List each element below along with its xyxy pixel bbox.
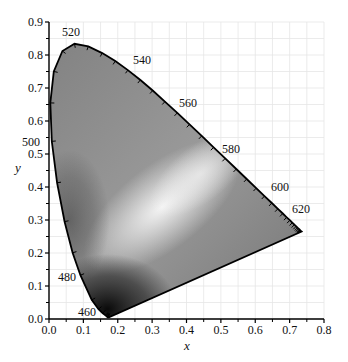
x-tick-label: 0.7 — [282, 323, 297, 337]
y-tick-label: 0.1 — [28, 279, 43, 293]
y-tick-label: 0.3 — [28, 213, 43, 227]
wavelength-label-580: 580 — [222, 142, 240, 156]
wavelength-label-460: 460 — [78, 305, 96, 319]
wavelength-label-620: 620 — [292, 202, 310, 216]
y-tick-label: 0.6 — [28, 114, 43, 128]
wavelength-label-600: 600 — [271, 180, 289, 194]
y-tick-label: 0.9 — [28, 15, 43, 29]
wavelength-label-560: 560 — [179, 96, 197, 110]
x-tick-label: 0.4 — [179, 323, 194, 337]
x-tick-label: 0.6 — [248, 323, 263, 337]
y-tick-label: 0.8 — [28, 48, 43, 62]
wavelength-label-540: 540 — [133, 53, 151, 67]
x-tick-label: 0.1 — [76, 323, 91, 337]
y-tick-label: 0.5 — [28, 147, 43, 161]
x-axis-title: x — [183, 338, 190, 353]
y-tick-label: 0.4 — [28, 180, 43, 194]
cie-chromaticity-chart: 460480500520540560580600620 0.00.10.20.3… — [0, 0, 348, 362]
y-axis-title: y — [13, 160, 21, 175]
y-tick-label: 0.0 — [28, 312, 43, 326]
wavelength-label-480: 480 — [58, 270, 76, 284]
x-tick-label: 0.8 — [317, 323, 332, 337]
x-tick-label: 0.0 — [42, 323, 57, 337]
gamut-fill — [0, 0, 348, 362]
x-tick-label: 0.2 — [110, 323, 125, 337]
wavelength-label-520: 520 — [62, 25, 80, 39]
x-tick-label: 0.5 — [213, 323, 228, 337]
y-tick-label: 0.2 — [28, 246, 43, 260]
y-tick-label: 0.7 — [28, 81, 43, 95]
chart-svg: 460480500520540560580600620 0.00.10.20.3… — [0, 0, 348, 362]
x-tick-label: 0.3 — [145, 323, 160, 337]
